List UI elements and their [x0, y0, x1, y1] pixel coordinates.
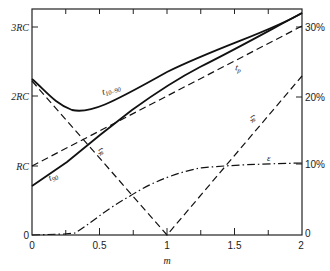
curve-tp — [32, 26, 302, 166]
chart-container: 0 0.5 1 1.5 2 m 3RC 2RC RC 0 30% 20% 10%… — [0, 0, 330, 271]
label-tR-right: tR — [248, 112, 261, 124]
svg-text:tp: tp — [235, 62, 243, 74]
y-left-0: 0 — [23, 230, 29, 241]
label-epsilon: ε — [267, 153, 271, 163]
svg-text:t10–90: t10–90 — [101, 81, 123, 97]
curve-t10-90 — [32, 13, 302, 111]
y-left-rc: RC — [15, 161, 29, 172]
x-tick-2: 2 — [298, 240, 304, 251]
y-left-3rc: 3RC — [10, 22, 29, 33]
y-right-0: 0 — [305, 228, 311, 239]
svg-text:tR: tR — [96, 145, 109, 157]
svg-text:tR: tR — [248, 112, 261, 124]
curve-tR — [32, 76, 302, 235]
x-tick-1-5: 1.5 — [228, 240, 242, 251]
x-axis-label: m — [163, 255, 170, 266]
y-right-30: 30% — [305, 22, 325, 33]
y-right-20: 20% — [305, 92, 325, 103]
x-tick-0-5: 0.5 — [93, 240, 107, 251]
x-tick-0: 0 — [29, 240, 35, 251]
x-tick-1: 1 — [164, 240, 170, 251]
chart-svg: 0 0.5 1 1.5 2 m 3RC 2RC RC 0 30% 20% 10%… — [0, 0, 330, 271]
y-right-10: 10% — [305, 159, 325, 170]
label-tR-left: tR — [96, 145, 109, 157]
y-left-2rc: 2RC — [11, 91, 29, 102]
label-t10-90: t10–90 — [101, 81, 123, 97]
curve-t90 — [32, 13, 302, 186]
plot-frame — [32, 9, 302, 235]
label-tp: tp — [235, 62, 243, 74]
x-ticks — [32, 9, 302, 235]
curve-epsilon — [32, 163, 302, 235]
